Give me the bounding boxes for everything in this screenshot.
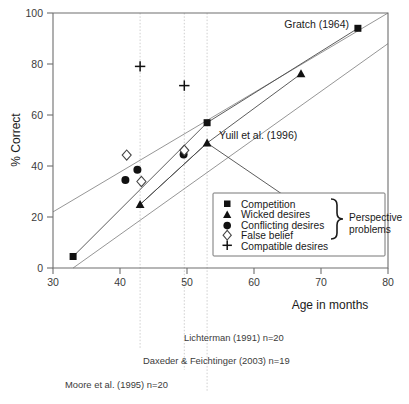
data-point-competition-1	[70, 253, 77, 260]
legend-brace-line2: problems	[349, 224, 391, 235]
data-point-compatible-1	[135, 61, 145, 71]
annotation-gratch: Gratch (1964)	[284, 18, 349, 30]
legend-label-conflicting-desires: Conflicting desires	[241, 220, 324, 231]
data-point-conflicting-1	[121, 176, 129, 184]
legend-brace-line1: Perspective	[349, 212, 403, 223]
y-tick-label-20: 20	[31, 211, 43, 223]
data-point-compatible-2	[179, 80, 189, 90]
data-point-false-belief-1	[122, 150, 131, 160]
x-tick-label-50: 50	[181, 276, 193, 288]
y-axis-title: % Correct	[9, 113, 23, 167]
x-tick-label-80: 80	[382, 276, 394, 288]
y-tick-label-60: 60	[31, 109, 43, 121]
x-tick-label-60: 60	[248, 276, 260, 288]
scatter-chart: 100 80 60 40 20 0 % Correct 30 40 50 60 …	[0, 0, 409, 404]
legend-marker-competition	[224, 201, 231, 208]
data-point-conflicting-2	[133, 166, 141, 174]
data-point-competition-3	[354, 25, 361, 32]
annotation-yuill: Yuill et al. (1996)	[219, 129, 297, 141]
footnote-daxeder: Daxeder & Feichtinger (2003) n=19	[143, 355, 290, 366]
legend-label-competition: Competition	[241, 199, 295, 210]
x-tick-label-70: 70	[315, 276, 327, 288]
data-point-wicked-3	[297, 69, 306, 77]
footnote-lichterman: Lichterman (1991) n=20	[184, 332, 284, 343]
y-tick-label-100: 100	[25, 7, 43, 19]
x-tick-label-30: 30	[47, 276, 59, 288]
data-point-wicked-2	[203, 139, 212, 147]
legend-label-false-belief: False belief	[241, 230, 293, 241]
y-tick-label-40: 40	[31, 160, 43, 172]
y-axis: 100 80 60 40 20 0 % Correct	[9, 7, 53, 274]
x-axis-title: Age in months	[292, 298, 369, 312]
x-axis: 30 40 50 60 70 80 Age in months	[47, 268, 394, 312]
x-tick-label-40: 40	[114, 276, 126, 288]
trend-line-upper	[53, 13, 388, 212]
y-tick-label-0: 0	[37, 262, 43, 274]
plot-annotations: Gratch (1964) Yuill et al. (1996)	[219, 18, 349, 141]
legend-label-wicked-desires: Wicked desires	[241, 209, 310, 220]
footnote-moore: Moore et al. (1995) n=20	[65, 379, 168, 390]
legend-label-compatible-desires: Compatible desires	[241, 241, 328, 252]
data-point-competition-2	[204, 119, 211, 126]
y-tick-label-80: 80	[31, 58, 43, 70]
series-compatible-desires	[135, 61, 190, 91]
footnotes: Lichterman (1991) n=20 Daxeder & Feichti…	[65, 332, 290, 390]
chart-figure: 100 80 60 40 20 0 % Correct 30 40 50 60 …	[0, 0, 409, 404]
legend: Competition Wicked desires Conflicting d…	[213, 193, 403, 256]
legend-marker-conflicting-desires	[223, 222, 231, 230]
